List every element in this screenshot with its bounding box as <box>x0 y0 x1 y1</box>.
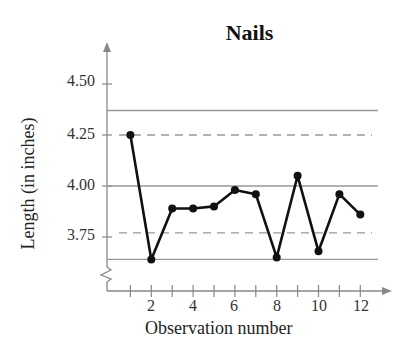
data-point <box>315 247 323 255</box>
data-point <box>252 190 260 198</box>
axis-break-icon <box>101 267 111 291</box>
data-point <box>231 186 239 194</box>
axes <box>101 42 392 297</box>
data-point <box>189 204 197 212</box>
data-point <box>294 172 302 180</box>
data-point <box>210 202 218 210</box>
x-axis-arrow-icon <box>382 287 392 295</box>
data-point <box>356 211 364 219</box>
series-line <box>130 135 360 259</box>
data-point <box>335 190 343 198</box>
control-chart <box>0 0 409 360</box>
data-point <box>126 131 134 139</box>
data-point <box>168 204 176 212</box>
y-axis-arrow-icon <box>103 42 111 52</box>
data-series <box>126 131 364 263</box>
data-point <box>147 255 155 263</box>
data-point <box>273 253 281 261</box>
